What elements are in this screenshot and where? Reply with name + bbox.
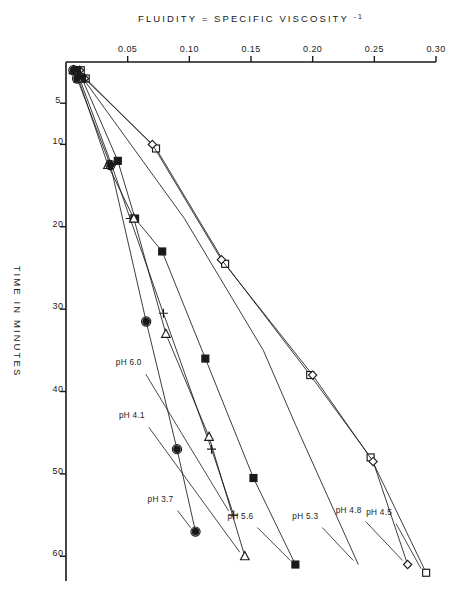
- series-ph-3-7: pH 3.7: [69, 66, 200, 537]
- chart-area: 51020304050600.050.100.150.200.250.30TIM…: [0, 0, 454, 607]
- data-point-open-triangle: [162, 329, 171, 337]
- data-point-open-triangle: [241, 552, 250, 560]
- data-point-filled-circle: [174, 446, 180, 452]
- series-label-leader: [366, 522, 403, 561]
- data-point-filled-square: [250, 475, 257, 482]
- series-label-leader: [146, 374, 229, 511]
- data-point-filled-circle: [70, 67, 76, 73]
- y-axis-tick-label: 0.15: [241, 44, 260, 54]
- data-point-filled-circle: [74, 75, 80, 81]
- x-axis-title: TIME IN MINUTES: [12, 266, 23, 378]
- series-label: pH 4.5: [366, 508, 392, 517]
- series-label: pH 5.6: [227, 512, 253, 521]
- rotated-chart-container: 51020304050600.050.100.150.200.250.30TIM…: [0, 0, 454, 607]
- data-point-open-square: [423, 569, 430, 576]
- y-axis-tick-label: 0.30: [426, 44, 445, 54]
- series-label: pH 5.3: [292, 512, 318, 521]
- series-label: pH 3.7: [148, 495, 174, 504]
- series-label: pH 4.8: [336, 506, 362, 515]
- y-axis-title: FLUIDITY = SPECIFIC VISCOSITY -1: [138, 13, 364, 25]
- data-point-filled-square: [159, 248, 166, 255]
- series-ph-5-6: pH 5.6: [74, 67, 299, 568]
- data-point-filled-square: [292, 561, 299, 568]
- x-axis-tick-label: 60: [53, 548, 64, 558]
- data-point-filled-circle: [143, 318, 149, 324]
- data-point-filled-circle: [192, 528, 198, 534]
- series-label: pH 6.0: [116, 358, 142, 367]
- data-point-filled-square: [114, 157, 121, 164]
- x-axis-tick-label: 10: [53, 136, 64, 146]
- x-axis-tick-label: 20: [53, 219, 64, 229]
- series-label-leader: [178, 511, 191, 528]
- series-label: pH 4.1: [119, 411, 145, 420]
- figure-page: 51020304050600.050.100.150.200.250.30TIM…: [0, 0, 454, 607]
- data-point-filled-square: [202, 355, 209, 362]
- series-line: [81, 70, 426, 573]
- y-axis-tick-label: 0.20: [303, 44, 322, 54]
- x-axis-tick-label: 40: [53, 384, 64, 394]
- series-ph-4-1: pH 4.1: [69, 66, 249, 560]
- x-axis-tick-label: 5: [55, 95, 60, 105]
- series-line: [77, 70, 358, 564]
- data-point-open-diamond: [404, 560, 412, 568]
- y-axis-tick-label: 0.25: [365, 44, 384, 54]
- x-axis-tick-label: 50: [53, 466, 64, 476]
- data-point-filled-circle: [107, 162, 113, 168]
- scientific-line-plot: 51020304050600.050.100.150.200.250.30TIM…: [0, 0, 454, 607]
- svg-text:FLUIDITY = SPECIFIC VISCOSITY: FLUIDITY = SPECIFIC VISCOSITY -1: [138, 13, 364, 25]
- y-axis-tick-label: 0.10: [180, 44, 199, 54]
- y-axis-tick-label: 0.05: [118, 44, 137, 54]
- series-line: [73, 70, 195, 531]
- series-ph-5-3: pH 5.3: [77, 70, 358, 564]
- x-axis-tick-label: 30: [53, 301, 64, 311]
